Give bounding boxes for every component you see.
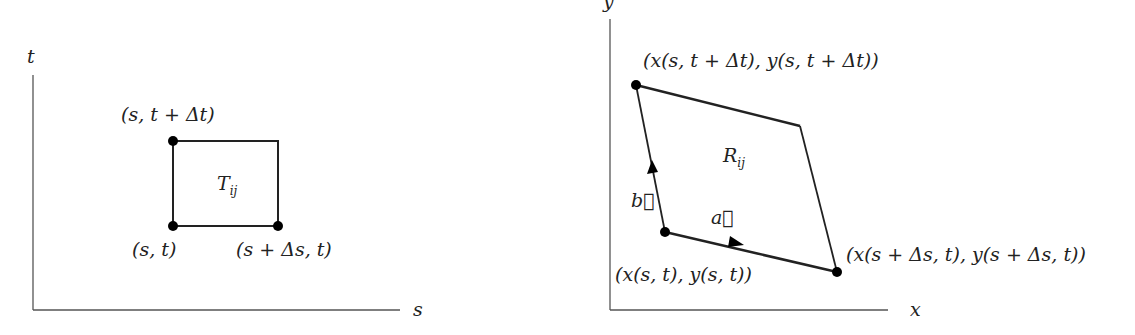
vector-b-arrowhead (647, 160, 658, 174)
diagram-canvas: t s Tij (s, t + Δt) (s, t) (s + Δs, t) y… (0, 0, 1135, 335)
t-axis-label: t (27, 45, 35, 67)
region-label-r: Rij (722, 144, 745, 170)
point-top (168, 136, 178, 146)
left-diagram: t s Tij (s, t + Δt) (s, t) (s + Δs, t) (27, 45, 423, 320)
label-top-point-mapped: (x(s, t + Δt), y(s, t + Δt)) (643, 49, 879, 71)
label-right-point-mapped: (x(s + Δs, t), y(s + Δs, t)) (846, 243, 1086, 265)
s-axis-label: s (413, 298, 423, 320)
label-origin-point-mapped: (x(s, t), y(s, t)) (615, 263, 752, 285)
x-axis-label: x (910, 298, 921, 320)
point-origin (168, 221, 178, 231)
region-label-t: Tij (217, 172, 238, 198)
label-origin-point: (s, t) (132, 238, 176, 260)
y-axis-label: y (602, 0, 614, 12)
point-right-mapped (832, 267, 842, 277)
edge-right (800, 126, 837, 272)
vector-b-label: b⃗ (631, 189, 655, 211)
edge-top (636, 85, 800, 126)
vector-a-arrowhead (728, 236, 744, 247)
point-origin-mapped (660, 227, 670, 237)
vector-a-label: a⃗ (711, 206, 734, 228)
point-top-mapped (631, 80, 641, 90)
label-right-point: (s + Δs, t) (236, 238, 332, 260)
label-top-point: (s, t + Δt) (121, 103, 215, 125)
point-right (273, 221, 283, 231)
right-diagram: y x Rij a⃗ b⃗ (x(s, t + Δt), y(s, t + Δt… (602, 0, 1086, 320)
